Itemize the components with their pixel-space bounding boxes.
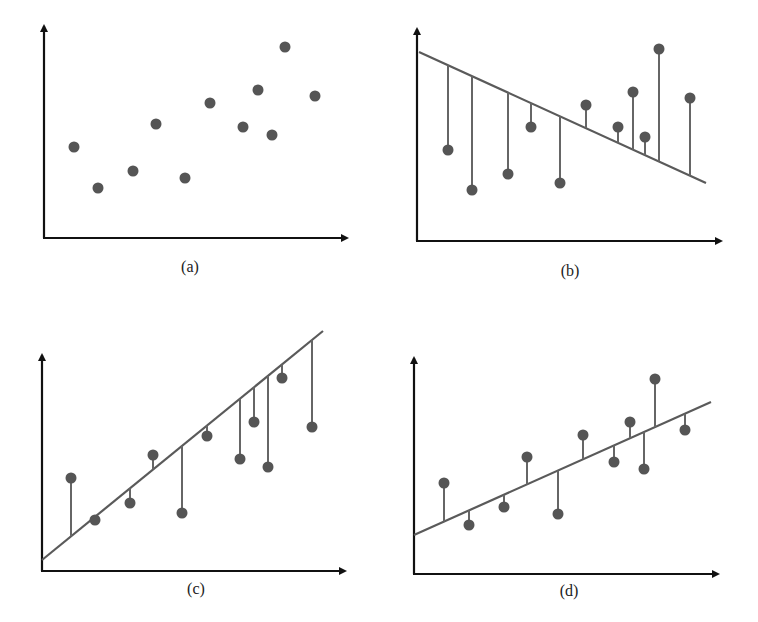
data-point [238, 122, 249, 133]
data-point [553, 509, 564, 520]
data-point [66, 473, 77, 484]
data-point [235, 454, 246, 465]
data-point [151, 119, 162, 130]
data-point [625, 417, 636, 428]
data-point [639, 464, 650, 475]
data-point [93, 183, 104, 194]
data-point [249, 417, 260, 428]
data-point [640, 132, 651, 143]
data-point [90, 515, 101, 526]
data-point [148, 450, 159, 461]
panel-c-steep-fit [41, 331, 345, 571]
data-point [277, 373, 288, 384]
data-point [578, 430, 589, 441]
data-point [680, 425, 691, 436]
data-point [613, 122, 624, 133]
data-point [522, 452, 533, 463]
data-point [69, 142, 80, 153]
panel-a-label: (a) [181, 258, 199, 276]
data-point [526, 122, 537, 133]
panel-b-label: (b) [561, 262, 580, 280]
data-point [555, 178, 566, 189]
data-point [439, 478, 450, 489]
data-point [581, 100, 592, 111]
data-point [205, 98, 216, 109]
panel-a-scatter [43, 26, 347, 238]
data-point [177, 508, 188, 519]
data-point [125, 498, 136, 509]
data-point [128, 166, 139, 177]
panel-d-best-fit [413, 358, 718, 574]
regression-figure [0, 0, 758, 622]
regression-line [419, 52, 706, 183]
data-point [628, 87, 639, 98]
data-point [310, 91, 321, 102]
data-point [467, 185, 478, 196]
data-point [253, 85, 264, 96]
data-point [443, 145, 454, 156]
data-point [464, 520, 475, 531]
data-point [202, 431, 213, 442]
panel-d-label: (d) [560, 582, 579, 600]
data-point [263, 462, 274, 473]
data-point [280, 42, 291, 53]
data-point [685, 93, 696, 104]
data-point [307, 422, 318, 433]
data-point [180, 173, 191, 184]
panel-c-label: (c) [187, 580, 205, 598]
data-point [499, 502, 510, 513]
data-point [650, 374, 661, 385]
data-point [609, 457, 620, 468]
regression-line [42, 331, 323, 560]
data-point [654, 44, 665, 55]
data-point [503, 169, 514, 180]
data-point [267, 130, 278, 141]
panel-b-negative-fit [416, 29, 721, 241]
